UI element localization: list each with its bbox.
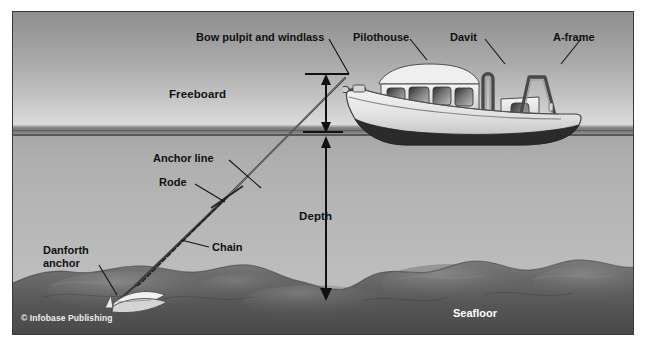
illustration-frame: Bow pulpit and windlass Pilothouse Davit… [12,11,634,335]
label-anchor-line: Anchor line [153,152,214,165]
label-danforth-anchor: Danforth anchor [43,244,89,269]
label-chain: Chain [212,241,243,254]
label-danforth-line2: anchor [43,257,80,269]
label-davit: Davit [450,31,477,44]
label-seafloor: Seafloor [453,307,497,320]
label-danforth-line1: Danforth [43,244,89,256]
copyright-credit: © Infobase Publishing [21,313,112,323]
label-rode: Rode [159,176,187,189]
label-depth: Depth [299,210,332,222]
figure-page: Bow pulpit and windlass Pilothouse Davit… [0,0,645,347]
fishing-boat [343,57,603,152]
label-a-frame: A-frame [553,31,595,44]
label-freeboard: Freeboard [169,88,226,100]
label-bow-pulpit-and-windlass: Bow pulpit and windlass [196,31,324,44]
label-pilothouse: Pilothouse [353,31,409,44]
